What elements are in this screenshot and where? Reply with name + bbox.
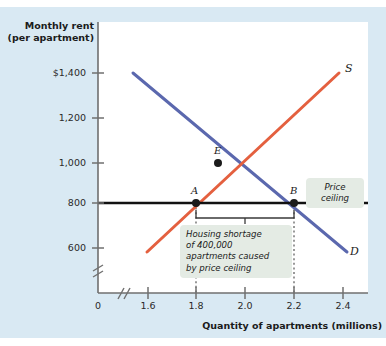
y-tick-label-1200: 1,200 <box>30 112 86 123</box>
x-tick-label-24: 2.4 <box>323 300 363 311</box>
shortage-callout-line2: of 400,000 <box>186 240 286 251</box>
y-axis-title-line2: (per apartment) <box>6 32 94 44</box>
point-a-marker <box>192 199 200 207</box>
y-tick-label-800: 800 <box>30 197 86 208</box>
price-ceiling-callout-line2: ceiling <box>312 193 358 204</box>
point-a-label: A <box>191 185 198 196</box>
shortage-callout-line4: by price ceiling <box>186 263 286 274</box>
supply-curve-label: S <box>345 62 353 75</box>
axis-origin-label: 0 <box>78 300 118 311</box>
demand-curve-label: D <box>350 245 359 258</box>
point-e-label: E <box>214 145 221 156</box>
x-tick-label-18: 1.8 <box>176 300 216 311</box>
y-tick-label-1400: $1,400 <box>30 67 86 78</box>
point-b-label: B <box>290 185 297 196</box>
figure-container: Monthly rent (per apartment) Quantity of… <box>0 0 386 346</box>
point-b-marker <box>290 199 298 207</box>
x-tick-label-22: 2.2 <box>274 300 314 311</box>
chart-canvas <box>0 0 386 346</box>
y-axis-title-line1: Monthly rent <box>6 20 94 32</box>
x-axis-title: Quantity of apartments (millions) <box>150 320 382 331</box>
shortage-bracket <box>196 210 294 218</box>
shortage-callout-line3: apartments caused <box>186 251 286 262</box>
shortage-callout-line1: Housing shortage <box>186 229 286 240</box>
y-tick-label-600: 600 <box>30 242 86 253</box>
x-tick-label-16: 1.6 <box>128 300 168 311</box>
point-e-marker <box>214 159 222 167</box>
housing-shortage-callout: Housing shortage of 400,000 apartments c… <box>180 225 292 278</box>
price-ceiling-callout-line1: Price <box>312 182 358 193</box>
y-tick-label-1000: 1,000 <box>30 157 86 168</box>
x-tick-label-20: 2.0 <box>225 300 265 311</box>
y-axis-title: Monthly rent (per apartment) <box>6 20 94 43</box>
price-ceiling-callout: Price ceiling <box>306 178 364 208</box>
